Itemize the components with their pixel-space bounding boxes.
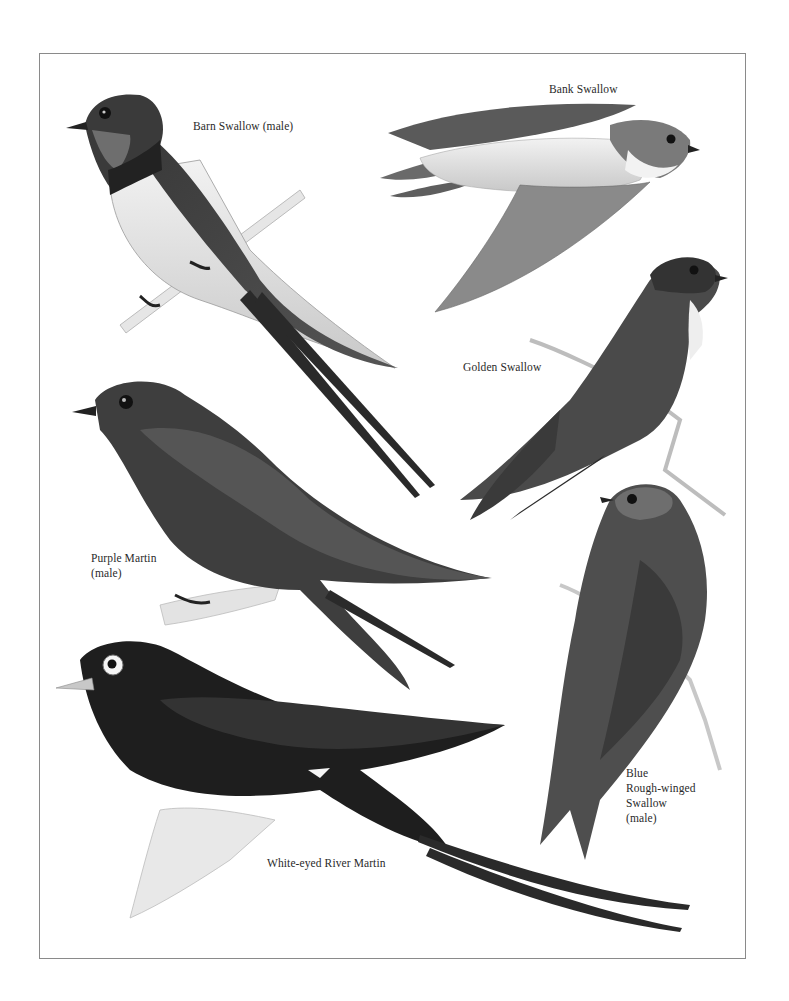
label-bank-swallow: Bank Swallow bbox=[549, 82, 618, 97]
label-purple-martin: Purple Martin (male) bbox=[91, 551, 157, 581]
golden-swallow-illustration bbox=[460, 257, 728, 520]
illustration-artwork bbox=[0, 0, 789, 1001]
label-blue-rough-winged-swallow: Blue Rough-winged Swallow (male) bbox=[626, 766, 696, 826]
label-golden-swallow: Golden Swallow bbox=[463, 360, 541, 375]
label-white-eyed-river-martin: White-eyed River Martin bbox=[267, 856, 386, 871]
label-barn-swallow: Barn Swallow (male) bbox=[193, 119, 293, 134]
